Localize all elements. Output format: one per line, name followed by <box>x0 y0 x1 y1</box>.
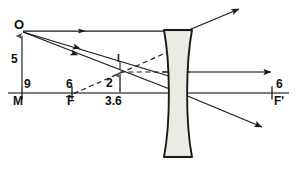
label-image-distance: 3.6 <box>105 95 122 107</box>
refracted-ray-upper <box>184 9 239 32</box>
refracted-ray-lower <box>178 92 262 127</box>
label-image-point: I <box>117 54 120 64</box>
label-object-height: 5 <box>11 53 18 65</box>
label-focal-length-right: 6 <box>276 78 283 90</box>
label-focus-right: F' <box>274 95 284 107</box>
label-focal-length-left: 6 <box>66 78 73 90</box>
incident-ray-parallel <box>23 29 168 34</box>
label-object-distance: 9 <box>24 78 31 90</box>
label-object-point: O <box>14 18 24 31</box>
ray-diagram-canvas: O 5 9 M 6 F I 2 3.6 6 F' <box>0 0 297 177</box>
diverging-lens <box>164 30 192 157</box>
diagram-svg <box>0 0 297 177</box>
incident-ray-through-center <box>23 32 180 93</box>
label-image-height: 2 <box>106 77 113 89</box>
label-focus-left: F <box>67 95 74 107</box>
label-point-M: M <box>13 95 23 107</box>
incident-ray-toward-focus <box>23 32 172 77</box>
